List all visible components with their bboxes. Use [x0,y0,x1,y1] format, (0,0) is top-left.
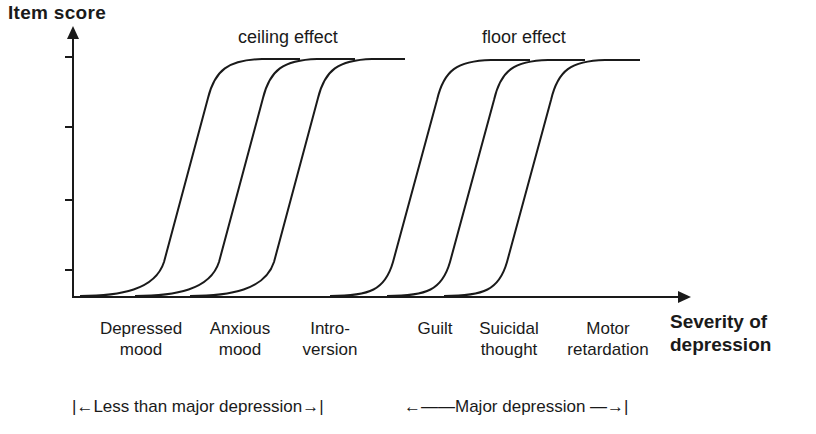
category-line2: retardation [556,339,660,360]
category-line1: Anxious [200,318,280,339]
category-label: Intro- version [290,318,370,360]
range-less-than-major: |←Less than major depression→| [72,397,324,417]
range-major-depression: ←——Major depression —→| [404,397,629,417]
category-line1: Suicidal [467,318,551,339]
category-line2: thought [467,339,551,360]
x-axis-label: Severity of depression [670,310,771,356]
curve-anxious-mood [135,59,355,296]
y-axis-label: Item score [8,2,106,24]
category-line2: mood [82,339,200,360]
category-label: Guilt [405,318,465,339]
chart-canvas [0,0,816,434]
x-axis-arrow-icon [678,291,691,303]
x-axis-label-line1: Severity of [670,310,771,333]
category-line2: mood [200,339,280,360]
y-axis-arrow-icon [67,26,79,39]
category-label: Suicidal thought [467,318,551,360]
category-label: Motor retardation [556,318,660,360]
x-axis-label-line2: depression [670,333,771,356]
category-line2: version [290,339,370,360]
floor-effect-annotation: floor effect [482,27,566,48]
category-line1: Guilt [405,318,465,339]
curve-introversion [190,59,405,296]
ceiling-effect-annotation: ceiling effect [238,27,338,48]
category-label: Depressed mood [82,318,200,360]
curve-guilt [330,60,530,296]
category-label: Anxious mood [200,318,280,360]
category-line1: Motor [556,318,660,339]
category-line1: Intro- [290,318,370,339]
curve-depressed-mood [80,59,300,296]
category-line1: Depressed [82,318,200,339]
